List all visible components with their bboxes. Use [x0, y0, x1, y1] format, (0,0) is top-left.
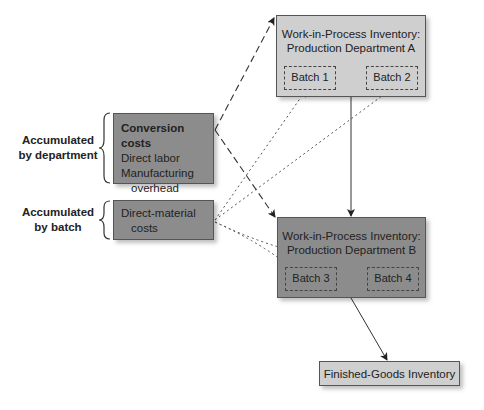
- label-accumulated-by-department: Accumulated by department: [18, 133, 98, 163]
- batch-2: Batch 2: [366, 66, 418, 90]
- direct-labor-text: Direct labor: [121, 151, 213, 166]
- label-accumulated-by-batch: Accumulated by batch: [18, 205, 98, 235]
- batch-1: Batch 1: [284, 66, 336, 90]
- edge-conversion-to-wip-b: [215, 130, 275, 217]
- edge-material-to-batch-1: [215, 90, 306, 220]
- wip-a-title-line2: Production Department A: [277, 41, 425, 55]
- batch-3: Batch 3: [285, 267, 337, 291]
- brace-by-batch: [99, 201, 110, 239]
- wip-department-b-box: Work-in-Process Inventory: Production De…: [277, 217, 426, 298]
- wip-a-title-line1: Work-in-Process Inventory:: [277, 27, 425, 41]
- batch-4: Batch 4: [367, 267, 419, 291]
- label-line: Accumulated: [18, 205, 98, 220]
- wip-b-title-line2: Production Department B: [278, 243, 425, 257]
- label-line: Accumulated: [18, 133, 98, 148]
- edge-material-to-batch-2: [215, 90, 390, 220]
- direct-material-box: Direct-material costs: [113, 200, 214, 240]
- costs-text: costs: [121, 221, 196, 236]
- finished-goods-box: Finished-Goods Inventory: [319, 361, 460, 386]
- label-line: by batch: [18, 220, 98, 235]
- conversion-costs-heading: Conversion costs: [121, 121, 213, 151]
- manufacturing-text: Manufacturing: [121, 166, 213, 181]
- direct-material-text: Direct-material: [121, 206, 196, 221]
- conversion-costs-box: Conversion costs Direct labor Manufactur…: [113, 113, 214, 184]
- finished-goods-title: Finished-Goods Inventory: [320, 367, 459, 381]
- edge-wip-b-to-finished: [351, 298, 387, 360]
- wip-department-a-box: Work-in-Process Inventory: Production De…: [276, 15, 426, 97]
- edge-conversion-to-wip-a: [215, 18, 274, 130]
- brace-by-department: [99, 113, 110, 183]
- label-line: by department: [18, 148, 98, 163]
- wip-b-title-line1: Work-in-Process Inventory:: [278, 229, 425, 243]
- overhead-text: overhead: [121, 181, 213, 196]
